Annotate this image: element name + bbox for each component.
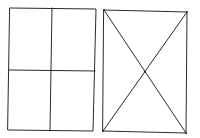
quartered-rectangle [8,8,96,131]
corner-dot-br [185,132,187,134]
corner-dot-tr [186,11,188,13]
intersection-point [144,71,146,73]
diagonal-rectangle [102,9,188,134]
vertical-divider [50,8,52,131]
diagram-canvas [0,0,200,138]
corner-dot-bl [102,130,104,132]
horizontal-divider [9,70,95,71]
corner-dot-tl [103,9,105,11]
